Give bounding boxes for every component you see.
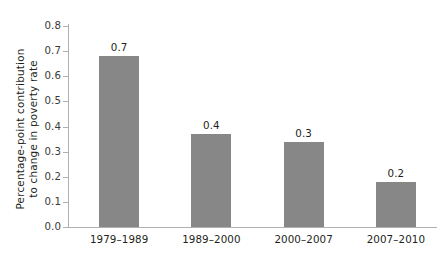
y-axis-tick [63, 26, 68, 27]
bar-group: 0.3 [284, 26, 324, 227]
y-axis-tick-label: 0.0 [3, 222, 61, 232]
y-axis-tick [63, 76, 68, 77]
bar[interactable] [99, 56, 139, 227]
x-axis-tick-labels: 1979–19891989–20002000–20072007–2010 [68, 233, 437, 253]
y-axis-tick-label: 0.2 [3, 172, 61, 182]
y-axis-tick-label: 0.6 [3, 71, 61, 81]
y-axis-tick [63, 177, 68, 178]
y-axis-tick-label: 0.1 [3, 197, 61, 207]
plot-area: 0.70.40.30.2 [68, 26, 437, 227]
bar[interactable] [191, 134, 231, 227]
bar[interactable] [284, 142, 324, 227]
y-axis-tick [63, 152, 68, 153]
bar-group: 0.4 [191, 26, 231, 227]
x-axis-line [68, 227, 437, 228]
y-axis-tick-label: 0.8 [3, 21, 61, 31]
y-axis-tick [63, 227, 68, 228]
y-axis-tick [63, 202, 68, 203]
y-axis-tick-label: 0.5 [3, 96, 61, 106]
x-axis-tick-label: 2007–2010 [341, 233, 446, 245]
bar-value-label: 0.7 [86, 42, 152, 53]
y-axis-tick [63, 51, 68, 52]
bar-chart: Percentage-point contribution to change … [0, 0, 446, 258]
bar-value-label: 0.2 [363, 168, 429, 179]
y-axis-tick-labels: 0.80.70.60.50.40.30.20.10.0 [0, 0, 61, 258]
bar-group: 0.2 [376, 26, 416, 227]
y-axis-tick-label: 0.3 [3, 147, 61, 157]
y-axis-tick [63, 101, 68, 102]
bar[interactable] [376, 182, 416, 227]
bar-group: 0.7 [99, 26, 139, 227]
y-axis-tick-label: 0.4 [3, 122, 61, 132]
bar-value-label: 0.4 [178, 120, 244, 131]
bar-value-label: 0.3 [271, 128, 337, 139]
y-axis-tick-label: 0.7 [3, 46, 61, 56]
y-axis-tick [63, 127, 68, 128]
